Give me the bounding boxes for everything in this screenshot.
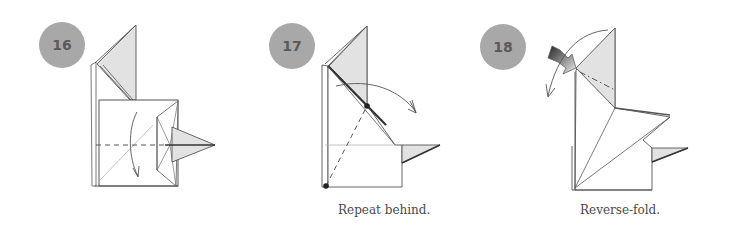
step-caption: Reverse-fold.: [580, 203, 660, 217]
step-17: 17 Repeat behind.: [240, 0, 480, 226]
reference-dot: [323, 183, 329, 189]
top-flap: [95, 25, 136, 100]
back-layers: [91, 62, 96, 186]
step-16: 16: [0, 0, 240, 226]
push-arrow-icon: [548, 46, 576, 74]
step-caption: Repeat behind.: [338, 203, 430, 217]
fold-diagram-17: [240, 0, 480, 226]
step-18: 18 Reverse-fold.: [480, 0, 730, 226]
fold-diagram-16: [0, 0, 240, 226]
front-square: [95, 100, 215, 186]
reference-dot: [364, 103, 370, 109]
fold-diagram-18: [480, 0, 730, 226]
